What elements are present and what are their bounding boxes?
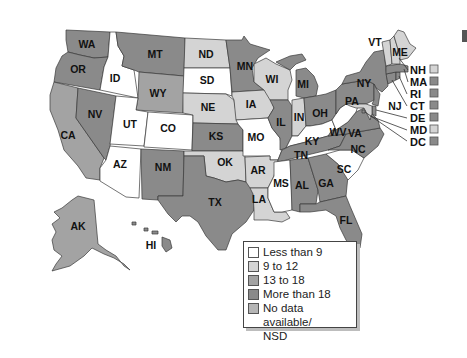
label-tn: TN [294,149,308,161]
label-ia: IA [246,98,257,110]
callout-label-ri: RI [410,88,421,100]
legend-label: 13 to 18 [263,273,305,287]
legend-swatch-more-than-18 [248,289,259,300]
us-choropleth-map: WA OR CA ID NV MT WY UT CO AZ NM ND SD N… [0,0,467,358]
label-nc: NC [350,143,366,155]
label-la: LA [252,193,266,205]
label-va: VA [348,127,362,139]
label-tx: TX [208,196,221,208]
legend-item-9-to-12: 9 to 12 [248,259,352,273]
callout-label-de: DE [410,112,425,124]
callout-label-nh: NH [410,64,426,76]
legend-label: 9 to 12 [263,259,298,273]
callout-swatch-nh [430,65,438,73]
label-fl: FL [340,214,353,226]
label-ar: AR [250,164,266,176]
label-mt: MT [147,48,163,60]
label-sc: SC [337,163,352,175]
label-al: AL [295,179,310,191]
label-wa: WA [79,38,96,50]
label-wy: WY [150,87,167,99]
label-wi: WI [266,73,279,85]
label-wv: WV [330,126,347,138]
label-mo: MO [248,131,265,143]
label-ca: CA [60,129,76,141]
legend-item-more-than-18: More than 18 [248,287,352,301]
state-dc [362,110,365,113]
label-mi: MI [297,78,309,90]
label-or: OR [70,63,86,75]
label-az: AZ [113,158,128,170]
northeast-callouts: NH MA RI CT DE MD DC [410,64,438,148]
callout-swatch-dc [430,137,438,145]
state-ak [52,196,130,271]
legend-swatch-no-data [248,303,259,314]
callout-swatch-md [430,125,438,133]
legend-label: No data available/ NSD [263,301,352,343]
legend-item-less-than-9: Less than 9 [248,245,352,259]
state-nm [141,149,184,200]
callout-label-ct: CT [410,100,425,112]
label-ny: NY [357,77,372,89]
label-sd: SD [200,74,215,86]
page-edge-mark [462,30,467,42]
label-nd: ND [198,48,214,60]
label-nj: NJ [388,100,402,112]
legend-swatch-9-to-12 [248,261,259,272]
label-in: IN [294,111,305,123]
label-hi: HI [146,239,157,251]
map-legend: Less than 9 9 to 12 13 to 18 More than 1… [243,241,357,328]
legend-swatch-13-to-18 [248,275,259,286]
label-oh: OH [312,107,328,119]
legend-swatch-less-than-9 [248,247,259,258]
callout-label-md: MD [410,124,427,136]
state-de [372,106,376,116]
leader-ri [399,76,407,94]
callout-label-dc: DC [410,136,426,148]
label-ak: AK [70,220,86,232]
label-il: IL [276,116,286,128]
label-ga: GA [318,177,334,189]
callout-swatch-ri [430,89,438,97]
legend-label: Less than 9 [263,245,322,259]
legend-label: More than 18 [263,287,331,301]
label-ms: MS [273,177,289,189]
label-ut: UT [123,118,138,130]
label-ks: KS [209,130,224,142]
label-pa: PA [345,95,359,107]
callout-swatch-ct [430,101,438,109]
callout-swatch-de [430,113,438,121]
legend-item-13-to-18: 13 to 18 [248,273,352,287]
label-id: ID [110,72,121,84]
label-ky: KY [305,135,320,147]
callout-swatch-ma [430,77,438,85]
legend-item-no-data: No data available/ NSD [248,301,352,343]
callout-label-ma: MA [410,76,427,88]
label-nv: NV [88,108,103,120]
label-me: ME [392,46,408,58]
label-co: CO [160,122,176,134]
label-mn: MN [237,60,253,72]
label-nm: NM [155,161,172,173]
label-ok: OK [217,156,233,168]
label-ne: NE [201,101,216,113]
label-vt: VT [368,36,382,48]
